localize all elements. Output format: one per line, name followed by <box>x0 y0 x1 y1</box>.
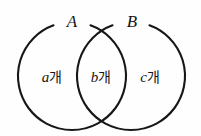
set-a-label: A <box>66 12 78 31</box>
region-label-left-only: a개 <box>42 69 63 85</box>
set-b-label: B <box>127 12 138 31</box>
region-left-unit: 개 <box>49 69 62 85</box>
region-right-unit: 개 <box>147 69 160 85</box>
region-label-right-only: c개 <box>140 69 160 85</box>
region-label-intersection: b개 <box>91 69 112 85</box>
venn-diagram-canvas: A B a개 b개 c개 <box>0 0 201 136</box>
region-left-variable: a <box>42 69 50 85</box>
region-intersection-unit: 개 <box>98 69 111 85</box>
venn-diagram-figure: A B a개 b개 c개 <box>0 0 201 136</box>
